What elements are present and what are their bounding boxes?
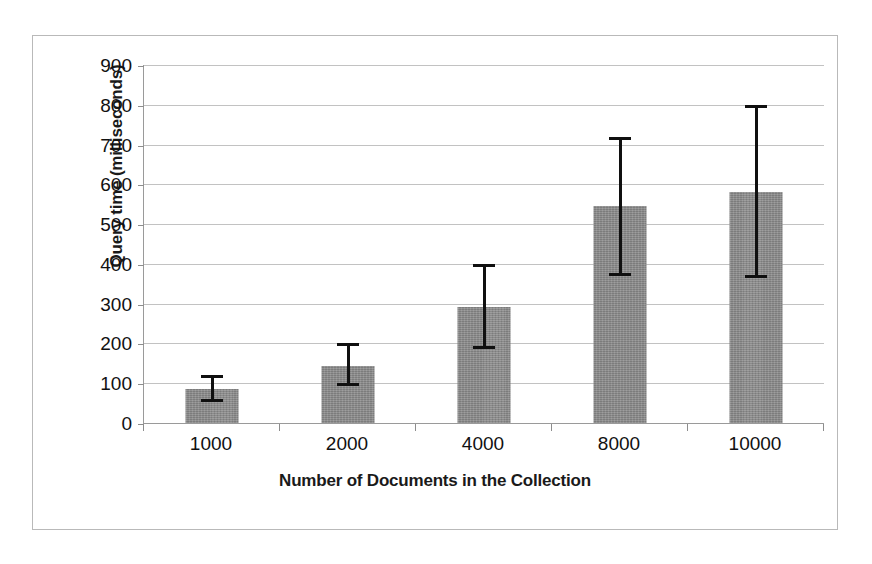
x-tick-1 (279, 424, 280, 431)
error-cap-top (745, 105, 767, 108)
x-tick-label-1000: 1000 (190, 433, 232, 455)
x-tick-2 (415, 424, 416, 431)
y-tick-label-400: 400 (100, 254, 132, 276)
error-bar-1000 (201, 375, 223, 402)
error-stem (483, 264, 486, 350)
x-axis (143, 423, 823, 424)
error-cap-top (201, 375, 223, 378)
plot-wrapper: 900 800 700 600 500 400 300 200 100 0 (143, 65, 823, 425)
error-cap-top (337, 343, 359, 346)
error-bar-8000 (609, 137, 631, 275)
error-stem (619, 137, 622, 275)
y-tick-label-500: 500 (100, 214, 132, 236)
error-cap-top (609, 137, 631, 140)
plot-area: 900 800 700 600 500 400 300 200 100 0 (143, 65, 824, 423)
x-tick-5 (823, 424, 824, 431)
error-bar-10000 (745, 105, 767, 278)
y-tick-label-300: 300 (100, 294, 132, 316)
bar-group-1000 (144, 65, 280, 423)
figure-frame: Query time (milliseconds) Number of Docu… (32, 35, 838, 530)
error-cap-bottom (609, 273, 631, 276)
error-stem (755, 105, 758, 278)
y-tick-label-800: 800 (100, 95, 132, 117)
x-tick-label-4000: 4000 (462, 433, 504, 455)
error-bar-2000 (337, 343, 359, 386)
error-cap-bottom (337, 383, 359, 386)
error-cap-bottom (201, 399, 223, 402)
y-tick-label-600: 600 (100, 174, 132, 196)
y-tick-label-900: 900 (100, 55, 132, 77)
y-tick-label-100: 100 (100, 373, 132, 395)
error-cap-top (473, 264, 495, 267)
error-cap-bottom (473, 346, 495, 349)
y-tick-label-200: 200 (100, 333, 132, 355)
error-stem (347, 343, 350, 386)
figure-page: Query time (milliseconds) Number of Docu… (0, 0, 872, 564)
error-cap-bottom (745, 275, 767, 278)
x-axis-title: Number of Documents in the Collection (33, 471, 837, 491)
x-tick-label-2000: 2000 (326, 433, 368, 455)
x-tick-3 (551, 424, 552, 431)
x-tick-0 (143, 424, 144, 431)
x-tick-label-8000: 8000 (598, 433, 640, 455)
x-tick-label-10000: 10000 (729, 433, 782, 455)
bars-layer (144, 65, 824, 423)
y-tick-label-0: 0 (121, 413, 132, 435)
error-bar-4000 (473, 264, 495, 350)
error-stem (211, 375, 214, 402)
bar-group-2000 (280, 65, 416, 423)
bar-group-4000 (416, 65, 552, 423)
x-tick-4 (687, 424, 688, 431)
y-tick-label-700: 700 (100, 135, 132, 157)
bar-group-10000 (688, 65, 824, 423)
bar-group-8000 (552, 65, 688, 423)
